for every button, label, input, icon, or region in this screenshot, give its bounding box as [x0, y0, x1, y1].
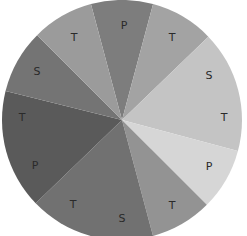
wheel-segments	[2, 0, 242, 236]
segment-label: T	[69, 198, 77, 211]
segment-label: T	[168, 199, 176, 212]
segment-label: T	[70, 31, 78, 44]
segment-wheel: PTSTPTSTPTST	[0, 0, 247, 236]
segment-label: P	[121, 19, 128, 32]
segment-label: P	[206, 160, 213, 173]
segment-label: T	[168, 31, 176, 44]
segment-label: T	[18, 111, 26, 124]
segment-label: S	[34, 65, 41, 78]
segment-label: S	[206, 69, 213, 82]
segment-label: T	[220, 111, 228, 124]
segment-label: P	[32, 159, 39, 172]
segment-label: S	[119, 212, 126, 225]
